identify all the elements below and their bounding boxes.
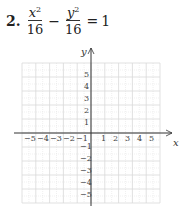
y-tick: 4	[84, 82, 89, 91]
x-tick: 2	[113, 134, 118, 143]
y-tick: −2	[80, 154, 92, 163]
y-tick: 1	[84, 118, 89, 127]
coordinate-grid: x y −5 −4 −3 −2 −1 1 2 3 4 5 5 4 3 2 1 −…	[0, 0, 187, 219]
y-tick: 5	[84, 70, 89, 79]
x-tick: 4	[137, 134, 142, 143]
y-tick: 2	[84, 106, 89, 115]
y-tick: −3	[80, 166, 92, 175]
x-tick: −4	[37, 134, 49, 143]
y-tick: 3	[84, 94, 89, 103]
tick-labels: −5 −4 −3 −2 −1 1 2 3 4 5 5 4 3 2 1 −1 −2…	[24, 70, 154, 199]
x-tick: 1	[101, 134, 106, 143]
x-tick: −3	[50, 134, 62, 143]
x-tick: 5	[149, 134, 154, 143]
x-tick: −2	[63, 134, 75, 143]
x-tick: 3	[125, 134, 130, 143]
y-tick: −4	[80, 178, 92, 187]
x-tick: −5	[24, 134, 36, 143]
y-tick: −5	[80, 190, 92, 199]
y-tick: −1	[80, 142, 92, 151]
y-axis-label: y	[80, 46, 87, 57]
x-axis-label: x	[173, 137, 179, 148]
